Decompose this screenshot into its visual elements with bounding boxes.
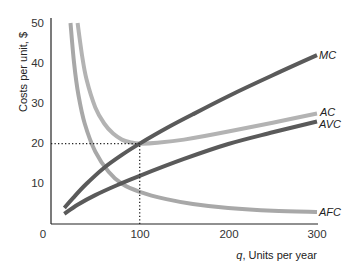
curve-ac: [78, 23, 317, 144]
x-axis-title-rest: , Units per year: [242, 249, 317, 261]
y-tick-30: 30: [31, 97, 44, 109]
label-afc: AFC: [318, 206, 341, 218]
y-tick-10: 10: [31, 177, 44, 189]
cost-curves-chart: 50 40 30 20 10 0 100 200 300 Costs per u…: [0, 0, 358, 270]
x-axis-title: q, Units per year: [236, 249, 317, 261]
label-mc: MC: [319, 49, 336, 61]
y-axis-title: Costs per unit, $: [17, 32, 29, 112]
y-tick-50: 50: [31, 17, 44, 29]
x-tick-0: 0: [40, 228, 46, 240]
label-ac: AC: [319, 106, 335, 118]
label-avc: AVC: [318, 118, 341, 130]
x-tick-300: 300: [307, 228, 326, 240]
y-tick-20: 20: [31, 137, 44, 149]
curve-afc: [71, 23, 318, 212]
y-tick-40: 40: [31, 57, 44, 69]
x-tick-100: 100: [130, 228, 149, 240]
curves-group: [64, 23, 317, 214]
x-tick-200: 200: [219, 228, 238, 240]
